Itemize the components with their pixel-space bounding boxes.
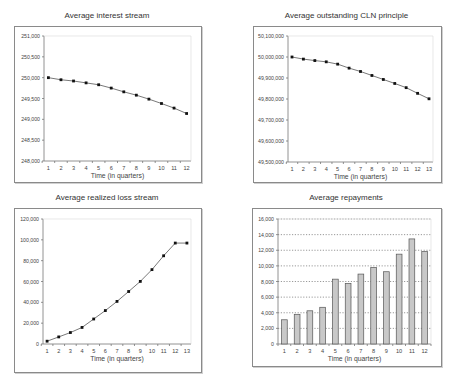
x-tick-label: 10 (392, 166, 398, 172)
x-tick-label: 10 (396, 348, 402, 354)
chart-panel-repayments: Average repayments 02,0004,0006,0008,000… (225, 187, 451, 374)
series-line (48, 78, 186, 114)
data-point-marker (97, 83, 100, 86)
y-tick-label: 248,500 (21, 137, 40, 143)
chart-panel-principal: Average outstanding CLN principle 49,500… (225, 0, 451, 187)
y-tick-label: 10,000 (258, 263, 274, 269)
x-tick-label: 10 (158, 165, 164, 171)
data-point-marker (185, 112, 188, 115)
y-tick-label: 120,000 (20, 216, 39, 222)
data-point-marker (174, 242, 177, 245)
x-tick-label: 8 (372, 348, 375, 354)
y-tick-label: 2,000 (261, 325, 274, 331)
x-tick-label: 9 (139, 348, 142, 354)
x-axis-title: Time (in quarters) (328, 355, 381, 363)
y-tick-label: 49,800,000 (258, 96, 284, 102)
data-point-marker (122, 90, 125, 93)
data-point-marker (336, 63, 339, 66)
y-tick-label: 249,000 (21, 116, 40, 122)
x-axis-title: Time (in quarters) (90, 355, 143, 363)
x-tick-label: 13 (184, 348, 190, 354)
data-point-marker (135, 94, 138, 97)
x-tick-label: 7 (115, 348, 118, 354)
x-tick-label: 11 (403, 166, 409, 172)
x-tick-label: 11 (171, 165, 177, 171)
bar (371, 267, 377, 344)
y-tick-label: 249,500 (21, 96, 40, 102)
y-tick-label: 0 (36, 341, 39, 347)
data-point-marker (162, 254, 165, 257)
bar (345, 283, 351, 344)
x-tick-label: 6 (347, 348, 350, 354)
y-tick-label: 0 (271, 341, 274, 347)
x-tick-label: 2 (302, 166, 305, 172)
x-tick-label: 1 (283, 348, 286, 354)
y-tick-label: 50,000,000 (258, 54, 284, 60)
y-tick-label: 250,500 (21, 54, 40, 60)
bar (282, 320, 288, 344)
x-tick-label: 12 (422, 348, 428, 354)
x-tick-label: 9 (382, 166, 385, 172)
y-tick-label: 80,000 (23, 258, 39, 264)
data-point-marker (151, 268, 154, 271)
y-tick-label: 20,000 (23, 320, 39, 326)
data-point-marker (72, 80, 75, 83)
data-point-marker (46, 340, 49, 343)
data-point-marker (348, 67, 351, 70)
data-point-marker (393, 82, 396, 85)
x-tick-label: 9 (385, 348, 388, 354)
y-tick-label: 250,000 (21, 75, 40, 81)
data-point-marker (92, 318, 95, 321)
y-tick-label: 16,000 (258, 216, 274, 222)
bar (422, 251, 428, 344)
x-tick-label: 12 (414, 166, 420, 172)
x-tick-label: 1 (47, 165, 50, 171)
data-point-marker (371, 74, 374, 77)
data-point-marker (127, 290, 130, 293)
data-point-marker (69, 331, 72, 334)
y-tick-label: 49,900,000 (258, 75, 284, 81)
x-tick-label: 6 (104, 348, 107, 354)
data-point-marker (60, 78, 63, 81)
bar (358, 274, 364, 344)
y-tick-label: 60,000 (23, 279, 39, 285)
x-tick-label: 2 (59, 165, 62, 171)
x-tick-label: 3 (308, 348, 311, 354)
data-point-marker (57, 336, 60, 339)
data-point-marker (173, 107, 176, 110)
x-tick-label: 5 (336, 166, 339, 172)
x-tick-label: 13 (426, 166, 432, 172)
bar (333, 279, 339, 344)
data-point-marker (160, 102, 163, 105)
x-tick-label: 4 (325, 166, 328, 172)
y-tick-label: 49,600,000 (258, 138, 284, 144)
bar (294, 314, 300, 344)
data-point-marker (148, 98, 151, 101)
x-tick-label: 11 (409, 348, 415, 354)
bar (320, 307, 326, 344)
y-tick-label: 14,000 (258, 232, 274, 238)
data-point-marker (405, 86, 408, 89)
x-tick-label: 7 (122, 165, 125, 171)
data-point-marker (85, 81, 88, 84)
data-point-marker (186, 242, 189, 245)
data-point-marker (116, 300, 119, 303)
x-tick-label: 6 (348, 166, 351, 172)
y-tick-label: 40,000 (23, 299, 39, 305)
chart-panel-interest: Average interest stream 248,000248,50024… (0, 0, 225, 187)
y-tick-label: 251,000 (21, 33, 40, 39)
line-chart-interest: 248,000248,500249,000249,500250,000250,5… (0, 0, 225, 187)
bar (307, 311, 313, 344)
x-tick-label: 10 (149, 348, 155, 354)
bar (409, 239, 415, 344)
x-axis-title: Time (in quarters) (91, 172, 144, 180)
data-point-marker (359, 70, 362, 73)
series-line (47, 243, 187, 341)
data-point-marker (139, 280, 142, 283)
bar (396, 254, 402, 344)
x-tick-label: 1 (46, 348, 49, 354)
data-point-marker (104, 309, 107, 312)
y-tick-label: 6,000 (261, 294, 274, 300)
y-tick-label: 49,500,000 (258, 159, 284, 165)
y-tick-label: 8,000 (261, 279, 274, 285)
